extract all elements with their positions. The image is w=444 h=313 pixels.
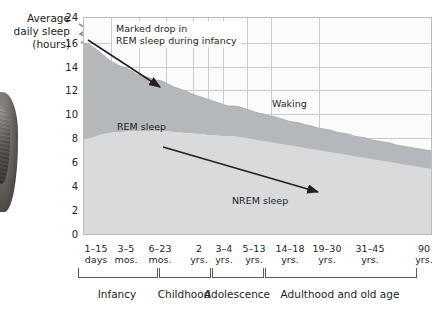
x-tick-3-5-mos-line1: 3–5 <box>118 243 135 254</box>
y-tick-4: 4 <box>52 182 78 192</box>
y-tick-0: 0 <box>52 230 78 240</box>
group-label-childhood: Childhood <box>158 288 211 300</box>
x-tick-1-15-days: 1–15 days <box>85 243 108 265</box>
x-tick-14-18-yrs-line1: 14–18 <box>276 243 305 254</box>
x-tick-90-yrs: 90 yrs. <box>415 243 433 265</box>
x-tick-2-yrs-line1: 2 <box>196 243 202 254</box>
x-tick-6-23-mos: 6–23 mos. <box>148 243 171 265</box>
y-tick-2: 2 <box>52 206 78 216</box>
x-tick-5-13-yrs: 5–13 yrs. <box>243 243 266 265</box>
age-group-brackets <box>0 268 444 280</box>
x-tick-1-15-days-line1: 1–15 <box>85 243 108 254</box>
x-tick-14-18-yrs: 14–18 yrs. <box>276 243 305 265</box>
x-tick-6-23-mos-line1: 6–23 <box>149 243 172 254</box>
sleep-across-lifespan-figure: Average daily sleep (hours) 24 16 14 12 … <box>0 0 444 313</box>
x-tick-31-45-yrs-line2: yrs. <box>356 254 385 265</box>
bracket-adulthood <box>265 268 417 278</box>
x-tick-1-15-days-line2: days <box>85 254 108 265</box>
rem-drop-callout-line-2: REM sleep during infancy <box>116 35 237 47</box>
x-tick-14-18-yrs-line2: yrs. <box>276 254 305 265</box>
decorative-photo <box>0 92 18 212</box>
x-tick-31-45-yrs: 31–45 yrs. <box>356 243 385 265</box>
x-tick-6-23-mos-line2: mos. <box>148 254 171 265</box>
y-tick-12: 12 <box>52 86 78 96</box>
y-tick-8: 8 <box>52 134 78 144</box>
x-tick-3-4-yrs-line1: 3–4 <box>216 243 233 254</box>
waking-label: Waking <box>272 98 307 109</box>
rem-sleep-label: REM sleep <box>117 121 166 132</box>
x-tick-5-13-yrs-line2: yrs. <box>243 254 266 265</box>
group-label-adolescence: Adolescence <box>204 288 270 300</box>
group-label-adulthood: Adulthood and old age <box>281 288 400 300</box>
x-tick-3-4-yrs-line2: yrs. <box>215 254 233 265</box>
x-tick-19-30-yrs: 19–30 yrs. <box>313 243 342 265</box>
x-tick-5-13-yrs-line1: 5–13 <box>243 243 266 254</box>
x-tick-19-30-yrs-line2: yrs. <box>313 254 342 265</box>
x-tick-19-30-yrs-line1: 19–30 <box>313 243 342 254</box>
x-tick-2-yrs-line2: yrs. <box>190 254 208 265</box>
y-tick-16: 16 <box>52 39 78 49</box>
x-tick-3-5-mos: 3–5 mos. <box>114 243 137 265</box>
x-tick-3-4-yrs: 3–4 yrs. <box>215 243 233 265</box>
chart-plot-area: Waking REM sleep NREM sleep Marked drop … <box>83 17 432 235</box>
x-tick-2-yrs: 2 yrs. <box>190 243 208 265</box>
rem-drop-callout-line-1: Marked drop in <box>116 23 237 35</box>
x-tick-90-yrs-line1: 90 <box>418 243 430 254</box>
bracket-infancy <box>78 268 158 278</box>
x-tick-3-5-mos-line2: mos. <box>114 254 137 265</box>
bracket-adolescence <box>212 268 264 278</box>
bracket-childhood <box>159 268 211 278</box>
group-label-infancy: Infancy <box>98 288 137 300</box>
x-tick-90-yrs-line2: yrs. <box>415 254 433 265</box>
y-tick-14: 14 <box>52 63 78 73</box>
x-tick-31-45-yrs-line1: 31–45 <box>356 243 385 254</box>
y-tick-10: 10 <box>52 110 78 120</box>
nrem-sleep-label: NREM sleep <box>232 195 288 206</box>
y-tick-6: 6 <box>52 158 78 168</box>
y-tick-24: 24 <box>52 13 78 23</box>
rem-drop-callout: Marked drop in REM sleep during infancy <box>112 21 241 48</box>
y-axis-title-line-2: daily sleep <box>2 25 70 38</box>
